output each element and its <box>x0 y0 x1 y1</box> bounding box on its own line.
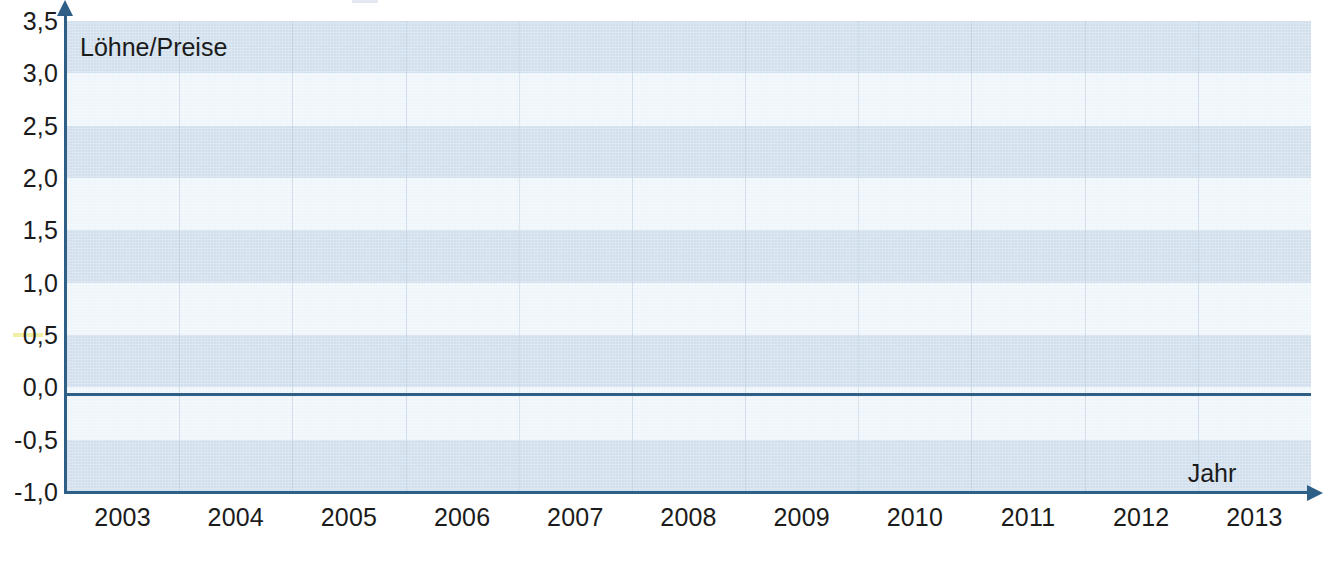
band <box>66 335 1311 387</box>
gridline <box>632 21 633 492</box>
x-axis-tick-label: 2006 <box>434 505 490 530</box>
gridline <box>858 21 859 492</box>
x-axis-tick-label: 2010 <box>887 505 943 530</box>
y-axis-tick-label: -0,5 <box>0 427 58 452</box>
plot-area <box>66 21 1311 492</box>
band <box>66 21 1311 73</box>
band <box>66 126 1311 178</box>
series-label: Löhne/Preise <box>80 35 227 60</box>
gridline <box>971 21 972 492</box>
gridline <box>179 21 180 492</box>
x-axis-tick-label: 2013 <box>1226 505 1282 530</box>
gridline <box>519 21 520 492</box>
gridline <box>745 21 746 492</box>
y-axis-tick-label: 2,0 <box>0 166 58 191</box>
y-axis-line <box>64 14 67 494</box>
x-axis-title: Jahr <box>1188 461 1237 486</box>
x-axis-tick-label: 2012 <box>1113 505 1169 530</box>
arrow-up-icon <box>57 0 73 16</box>
y-axis-tick-label: 1,5 <box>0 218 58 243</box>
gridline <box>1085 21 1086 492</box>
gridline <box>406 21 407 492</box>
chart-container: 3,53,02,52,01,51,00,50,0-0,5-1,0 2003200… <box>0 0 1325 573</box>
y-axis-tick-label: 0,5 <box>0 323 58 348</box>
band <box>66 230 1311 282</box>
x-axis-tick-label: 2008 <box>660 505 716 530</box>
y-axis-tick-label: 2,5 <box>0 113 58 138</box>
gridline <box>1198 21 1199 492</box>
x-axis-tick-label: 2011 <box>1001 505 1056 530</box>
x-axis-tick-label: 2003 <box>94 505 150 530</box>
gridline <box>292 21 293 492</box>
x-axis-tick-label: 2004 <box>208 505 264 530</box>
y-axis-tick-label: 1,0 <box>0 270 58 295</box>
band <box>66 178 1311 230</box>
y-axis-tick-label: 3,5 <box>0 9 58 34</box>
x-axis-tick-label: 2009 <box>773 505 829 530</box>
x-axis-tick-label: 2007 <box>547 505 603 530</box>
x-axis-line <box>64 491 1309 494</box>
y-axis-tick-labels: 3,53,02,52,01,51,00,50,0-0,5-1,0 <box>0 0 58 573</box>
band <box>66 283 1311 335</box>
x-axis-tick-label: 2005 <box>321 505 377 530</box>
y-axis-tick-label: -1,0 <box>0 480 58 505</box>
band <box>66 440 1311 492</box>
y-axis-tick-label: 3,0 <box>0 61 58 86</box>
cropped-title-remnant <box>352 0 378 3</box>
band <box>66 73 1311 125</box>
arrow-right-icon <box>1307 485 1323 501</box>
y-axis-tick-label: 0,0 <box>0 375 58 400</box>
zero-reference-line <box>64 393 1311 396</box>
